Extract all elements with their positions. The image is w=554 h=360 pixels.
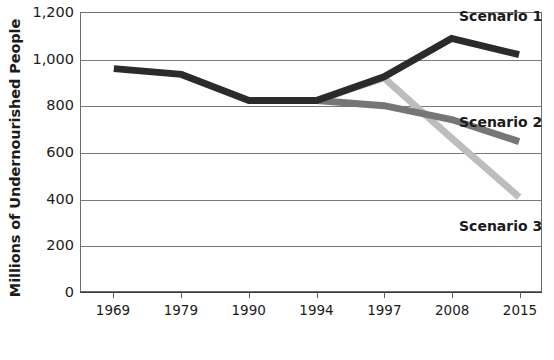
x-tick-mark-2015 xyxy=(520,292,521,298)
x-tick-mark-2008 xyxy=(452,292,453,298)
y-tick-label-200: 200 xyxy=(8,238,74,253)
x-tick-mark-1969 xyxy=(113,292,114,298)
series-label-scenario-2: Scenario 2 xyxy=(459,114,542,130)
x-tick-mark-1997 xyxy=(384,292,385,298)
x-tick-label-1990: 1990 xyxy=(214,302,284,318)
y-tick-label-0: 0 xyxy=(8,285,74,300)
series-label-scenario-3: Scenario 3 xyxy=(459,218,542,234)
x-tick-label-2008: 2008 xyxy=(417,302,487,318)
line-scenario-1 xyxy=(114,38,519,100)
y-tick-label-800: 800 xyxy=(8,98,74,113)
line-scenario-3 xyxy=(316,78,519,197)
y-axis-tick-labels: 1,200 1,000 800 600 400 200 0 xyxy=(8,0,74,360)
x-axis-line xyxy=(80,292,542,293)
x-tick-label-1969: 1969 xyxy=(78,302,148,318)
x-tick-mark-1979 xyxy=(181,292,182,298)
y-tick-label-1200: 1,200 xyxy=(8,5,74,20)
series-lines xyxy=(81,13,541,291)
y-tick-label-400: 400 xyxy=(8,191,74,206)
chart-figure: Millions of Undernourished People 1,200 … xyxy=(0,0,554,360)
x-tick-mark-1994 xyxy=(317,292,318,298)
y-tick-label-600: 600 xyxy=(8,145,74,160)
x-tick-mark-1990 xyxy=(249,292,250,298)
x-tick-label-1997: 1997 xyxy=(349,302,419,318)
x-tick-label-2015: 2015 xyxy=(485,302,554,318)
x-tick-label-1979: 1979 xyxy=(146,302,216,318)
series-label-scenario-1: Scenario 1 xyxy=(459,8,542,24)
plot-area xyxy=(80,12,542,292)
y-tick-label-1000: 1,000 xyxy=(8,51,74,66)
x-tick-label-1994: 1994 xyxy=(282,302,352,318)
